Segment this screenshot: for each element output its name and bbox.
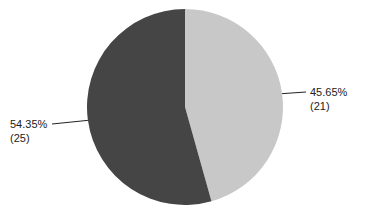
slice-2-percent-label: 54.35% [10, 118, 48, 130]
slice-1-count-label: (21) [310, 100, 330, 112]
slice-1-percent-label: 45.65% [310, 86, 348, 98]
leader-line-1 [282, 92, 306, 94]
leader-line-2 [52, 120, 88, 124]
slice-2-count-label: (25) [10, 132, 30, 144]
pie-chart: 45.65% (21) 54.35% (25) [0, 0, 369, 210]
